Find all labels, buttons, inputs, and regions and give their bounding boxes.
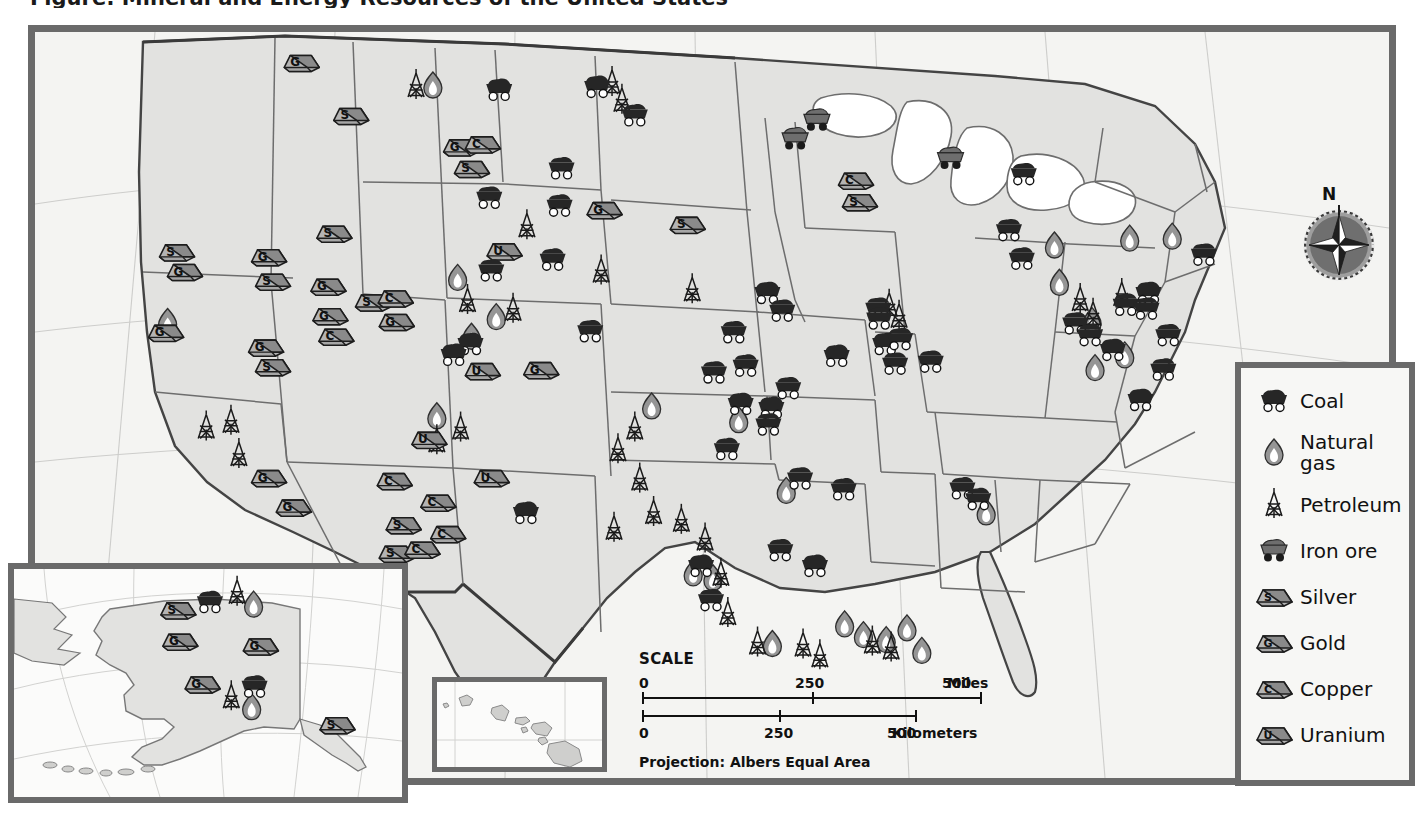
legend-item-gold[interactable]: G Gold: [1241, 620, 1409, 666]
legend-item-copper[interactable]: C Copper: [1241, 666, 1409, 712]
legend-label-silver: Silver: [1300, 587, 1356, 608]
projection-label: Projection: Albers Equal Area: [639, 754, 1089, 770]
legend-label-natural-gas: Natural gas: [1300, 432, 1374, 474]
legend-item-uranium[interactable]: U Uranium: [1241, 712, 1409, 758]
coal-cart-icon: [1252, 385, 1296, 417]
legend-item-natural-gas[interactable]: Natural gas: [1241, 424, 1409, 482]
scale-miles-tick-250: 250: [795, 675, 824, 691]
svg-text:G: G: [249, 639, 259, 653]
iron-ore-cart-icon: [1252, 535, 1296, 567]
scale-km-tick-500: 500 Kilometers: [887, 725, 892, 741]
scale-miles-tick-0: 0: [639, 675, 649, 691]
silver-ingot-icon: S: [1252, 584, 1296, 610]
compass-rose-icon: [1294, 200, 1384, 290]
legend-item-iron-ore[interactable]: Iron ore: [1241, 528, 1409, 574]
hawaii-inset-canvas: [437, 682, 602, 767]
scale-km-labels: 0 250 500 Kilometers: [639, 725, 1089, 742]
legend-item-petroleum[interactable]: Petroleum: [1241, 482, 1409, 528]
scale-miles-labels: 0 250 500 Miles: [639, 675, 1089, 692]
svg-text:S: S: [1264, 591, 1272, 604]
legend-label-coal: Coal: [1300, 391, 1344, 412]
petroleum-derrick-icon: [1252, 486, 1296, 524]
legend-item-coal[interactable]: Coal: [1241, 378, 1409, 424]
resource-map-figure: Figure: Mineral and Energy Resources of …: [0, 0, 1423, 816]
scale-miles-line: [639, 692, 1089, 704]
scale-bar: SCALE 0 250 500 Miles 0 250 500 Kilomete…: [639, 650, 1089, 770]
legend-label-natural-gas-line2: gas: [1300, 451, 1335, 475]
scale-km-tick-0: 0: [639, 725, 649, 741]
copper-ingot-icon: C: [1252, 676, 1296, 702]
legend-label-gold: Gold: [1300, 633, 1346, 654]
legend-label-petroleum: Petroleum: [1300, 495, 1402, 516]
legend-label-iron-ore: Iron ore: [1300, 541, 1377, 562]
svg-text:G: G: [169, 634, 179, 648]
gold-ingot-icon: G: [1252, 630, 1296, 656]
legend-label-uranium: Uranium: [1300, 725, 1386, 746]
scale-miles-unit: Miles: [947, 675, 988, 691]
svg-text:U: U: [1264, 729, 1273, 742]
alaska-inset-canvas: SGGGS: [14, 569, 402, 797]
uranium-ingot-icon: U: [1252, 722, 1296, 748]
scale-miles-tick-500: 500 Miles: [942, 675, 947, 691]
natural-gas-flame-icon: [1252, 436, 1296, 470]
svg-text:G: G: [191, 677, 201, 691]
scale-km-line: [639, 710, 1089, 722]
scale-km-tick-250: 250: [764, 725, 793, 741]
page-title: Figure: Mineral and Energy Resources of …: [30, 0, 728, 8]
legend-label-copper: Copper: [1300, 679, 1372, 700]
svg-text:S: S: [327, 718, 336, 732]
svg-text:G: G: [1263, 637, 1272, 650]
alaska-inset: SGGGS: [8, 563, 408, 803]
svg-text:C: C: [1264, 683, 1272, 696]
scale-title: SCALE: [639, 650, 1089, 668]
map-legend: Coal Natural gas Petroleum: [1235, 362, 1415, 786]
legend-item-silver[interactable]: S Silver: [1241, 574, 1409, 620]
compass-rose: N: [1294, 186, 1384, 286]
svg-text:S: S: [168, 603, 177, 617]
hawaii-inset: [432, 677, 607, 772]
scale-km-unit: Kilometers: [892, 725, 978, 741]
